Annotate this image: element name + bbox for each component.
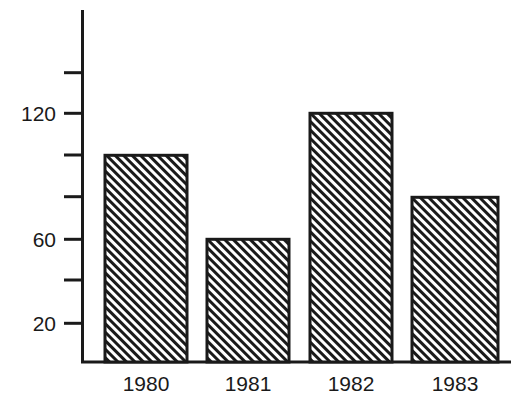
y-tick-label-120: 120 xyxy=(21,102,56,125)
bar-1983 xyxy=(412,197,498,362)
y-tick-label-60: 60 xyxy=(33,228,56,251)
x-tick-label-1983: 1983 xyxy=(432,372,479,395)
x-tick-label-1980: 1980 xyxy=(123,372,170,395)
bar-1981 xyxy=(207,239,289,362)
y-tick-label-20: 20 xyxy=(33,312,56,335)
bar-1982 xyxy=(310,113,392,362)
x-tick-label-1981: 1981 xyxy=(225,372,272,395)
x-tick-label-1982: 1982 xyxy=(328,372,375,395)
chart-canvas: 120 60 20 1980 1981 1982 1983 xyxy=(0,0,511,400)
bar-1980 xyxy=(105,155,187,362)
bar-chart: 120 60 20 1980 1981 1982 1983 xyxy=(0,0,511,400)
